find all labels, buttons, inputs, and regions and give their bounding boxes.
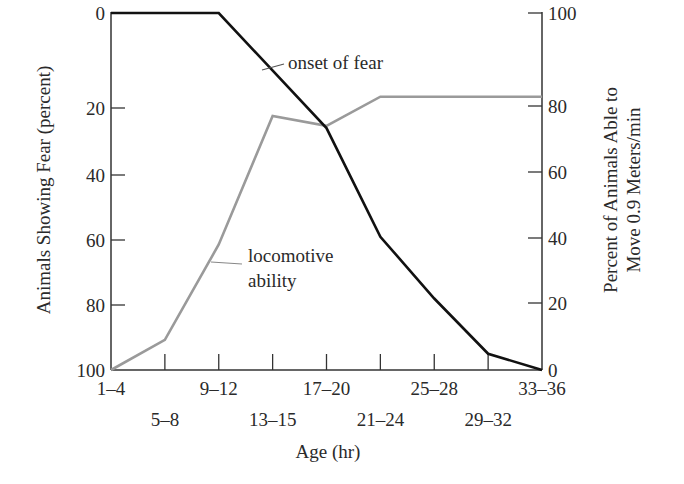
x-tick-label: 9–12 bbox=[200, 378, 238, 399]
locomotive-ability-label-line1: locomotive bbox=[248, 245, 333, 266]
x-tick-label: 17–20 bbox=[303, 378, 351, 399]
left-tick-label: 40 bbox=[86, 165, 105, 186]
left-axis-title: Animals Showing Fear (percent) bbox=[33, 66, 55, 315]
left-tick-label: 60 bbox=[86, 230, 105, 251]
x-ticks: 1–45–89–1213–1517–2021–2425–2829–3233–36 bbox=[97, 354, 566, 430]
right-tick-label: 40 bbox=[548, 228, 567, 249]
x-tick-label: 29–32 bbox=[464, 409, 512, 430]
locomotive-ability-line bbox=[111, 97, 542, 370]
left-ticks: 020406080100 bbox=[77, 3, 126, 381]
x-axis-title: Age (hr) bbox=[296, 441, 361, 463]
x-tick-label: 21–24 bbox=[357, 409, 405, 430]
right-axis-title-line1: Percent of Animals Able to bbox=[600, 87, 621, 293]
locomotive-ability-label-line2: ability bbox=[248, 270, 297, 291]
x-tick-label: 33–36 bbox=[518, 378, 566, 399]
left-tick-label: 20 bbox=[86, 98, 105, 119]
chart: 020406080100 020406080100 1–45–89–1213–1… bbox=[0, 0, 684, 484]
x-tick-label: 5–8 bbox=[151, 409, 180, 430]
left-tick-label: 0 bbox=[96, 3, 106, 24]
x-tick-label: 13–15 bbox=[249, 409, 297, 430]
right-tick-label: 20 bbox=[548, 293, 567, 314]
right-ticks: 020406080100 bbox=[528, 3, 577, 381]
locomotive-ability-leader-line bbox=[211, 262, 242, 264]
x-tick-label: 1–4 bbox=[97, 378, 126, 399]
left-tick-label: 80 bbox=[86, 295, 105, 316]
right-tick-label: 100 bbox=[548, 3, 577, 24]
right-tick-label: 60 bbox=[548, 162, 567, 183]
right-axis-title-line2: Move 0.9 Meters/min bbox=[623, 107, 644, 273]
annotations: onset of fear locomotive ability bbox=[211, 52, 384, 291]
x-tick-label: 25–28 bbox=[411, 378, 459, 399]
onset-of-fear-label: onset of fear bbox=[288, 52, 384, 73]
right-tick-label: 80 bbox=[548, 96, 567, 117]
